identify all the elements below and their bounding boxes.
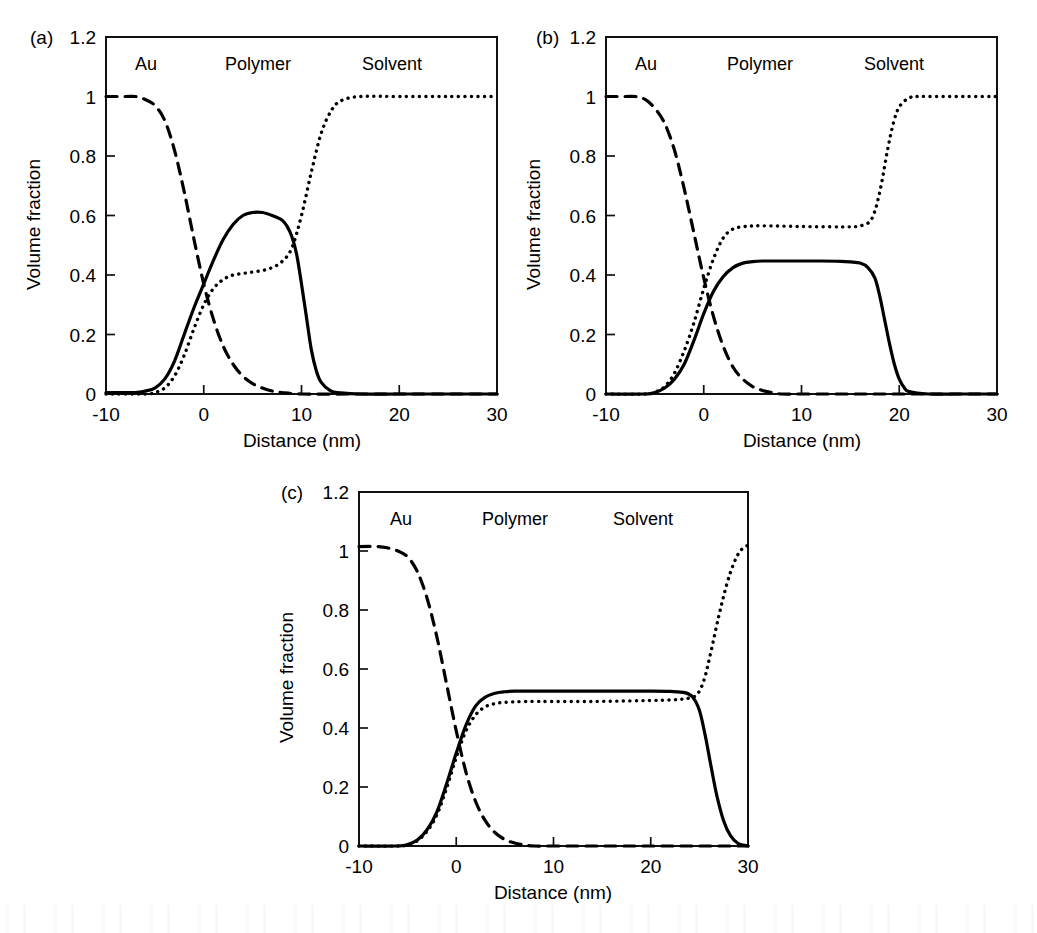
panel-c-y-tick-labels: 00.20.40.60.811.2 [323,482,350,857]
curve-au [606,96,997,394]
y-tick-label: 1.2 [323,482,349,503]
x-tick-label: 20 [389,404,410,425]
y-tick-label: 0.2 [323,777,349,798]
y-tick-label: 0.8 [70,146,96,167]
panel-b-curves [606,96,997,394]
y-tick-label: 1 [585,87,596,108]
panel-a-y-ticks [106,97,115,395]
y-tick-label: 0 [338,836,349,857]
panel-b-region-labels: AuPolymerSolvent [635,54,924,74]
region-label-solvent: Solvent [864,54,924,74]
panel-b-x-tick-labels: -100102030 [592,404,1007,425]
y-tick-label: 0.6 [323,659,349,680]
panel-c-letter: (c) [281,482,303,503]
scan-artifact-band [0,905,1037,933]
y-tick-label: 0.8 [570,146,596,167]
panel-b-plot-area: 00.20.40.60.811.2 -100102030 AuPolymerSo… [570,27,1008,425]
panel-a-svg: (a) 00.20.40.60.811.2 -100102030 AuPolym… [0,0,510,460]
panel-b-svg: (b) 00.20.40.60.811.2 -100102030 AuPolym… [510,0,1020,460]
panel-a-letter: (a) [30,27,53,48]
x-tick-label: 10 [291,404,312,425]
x-tick-label: 20 [889,404,910,425]
panel-a-ylabel: Volume fraction [23,159,44,290]
y-tick-label: 0.8 [323,600,349,621]
panel-b-frame [606,37,997,394]
curve-au [106,96,497,394]
y-tick-label: 1.2 [570,27,596,48]
panel-c-frame [359,492,748,846]
curve-polymer [106,212,497,394]
x-tick-label: 30 [986,404,1007,425]
curve-polymer [359,691,748,846]
panel-a-region-labels: AuPolymerSolvent [135,54,422,74]
panel-a-xlabel: Distance (nm) [243,430,361,451]
x-tick-label: 30 [486,404,507,425]
y-tick-label: 0.6 [70,206,96,227]
panel-c-y-ticks [359,551,368,846]
y-tick-label: 1 [338,541,349,562]
x-tick-label: 10 [791,404,812,425]
panel-c-ylabel: Volume fraction [276,612,297,743]
panel-c-xlabel: Distance (nm) [494,882,612,903]
panel-c-plot-area: 00.20.40.60.811.2 -100102030 AuPolymerSo… [323,482,759,877]
panel-b-y-ticks [606,97,615,395]
region-label-solvent: Solvent [613,509,673,529]
panel-b-xlabel: Distance (nm) [743,430,861,451]
x-tick-label: 0 [698,404,709,425]
y-tick-label: 0.2 [70,325,96,346]
region-label-au: Au [390,509,412,529]
panel-a-x-tick-labels: -100102030 [92,404,507,425]
x-tick-label: 0 [198,404,209,425]
y-tick-label: 0.6 [570,206,596,227]
panel-b-y-tick-labels: 00.20.40.60.811.2 [570,27,597,405]
region-label-polymer: Polymer [482,509,548,529]
x-tick-label: -10 [592,404,619,425]
panel-c-svg: (c) 00.20.40.60.811.2 -100102030 AuPolym… [253,455,773,925]
y-tick-label: 0.4 [323,718,350,739]
y-tick-label: 0.2 [570,325,596,346]
region-label-au: Au [135,54,157,74]
region-label-solvent: Solvent [362,54,422,74]
curve-polymer [606,261,997,394]
region-label-au: Au [635,54,657,74]
panel-c-region-labels: AuPolymerSolvent [390,509,673,529]
y-tick-label: 0 [85,384,96,405]
x-tick-label: -10 [92,404,119,425]
curve-solvent [106,96,497,394]
x-tick-label: 10 [543,856,564,877]
y-tick-label: 0.4 [70,265,97,286]
chart-panel-b: (b) 00.20.40.60.811.2 -100102030 AuPolym… [510,0,1020,460]
y-tick-label: 1 [85,87,96,108]
chart-panel-c: (c) 00.20.40.60.811.2 -100102030 AuPolym… [253,455,773,925]
x-tick-label: -10 [345,856,372,877]
curve-solvent [606,96,997,394]
panel-a-plot-area: 00.20.40.60.811.2 -100102030 AuPolymerSo… [70,27,508,425]
x-tick-label: 30 [737,856,758,877]
panel-c-x-tick-labels: -100102030 [345,856,758,877]
x-tick-label: 20 [640,856,661,877]
figure-volume-fraction-profiles: (a) 00.20.40.60.811.2 -100102030 AuPolym… [0,0,1037,933]
chart-panel-a: (a) 00.20.40.60.811.2 -100102030 AuPolym… [0,0,510,460]
panel-a-curves [106,96,497,394]
y-tick-label: 0 [585,384,596,405]
y-tick-label: 0.4 [570,265,597,286]
y-tick-label: 1.2 [70,27,96,48]
panel-a-y-tick-labels: 00.20.40.60.811.2 [70,27,97,405]
panel-c-curves [359,545,748,846]
x-tick-label: 0 [451,856,462,877]
region-label-polymer: Polymer [727,54,793,74]
region-label-polymer: Polymer [225,54,291,74]
panel-b-ylabel: Volume fraction [523,159,544,290]
panel-b-letter: (b) [536,27,559,48]
